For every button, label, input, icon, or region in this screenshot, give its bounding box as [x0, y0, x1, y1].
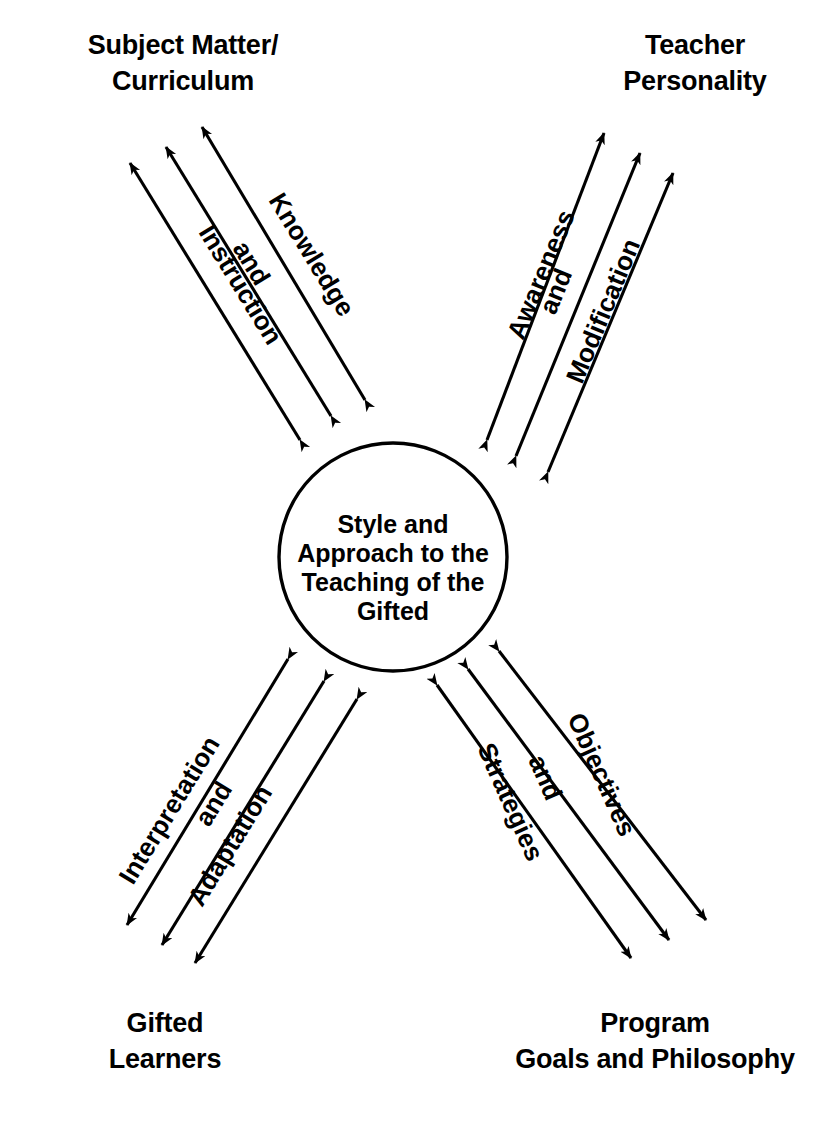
edge-label-top-right-inner: Modification [560, 234, 646, 387]
node-label-program-goals-and-philosophy: Program Goals and Philosophy [495, 1006, 815, 1077]
node-label-subject-matter-curriculum: Subject Matter/ Curriculum [18, 28, 348, 99]
center-text-line-4: Gifted [357, 597, 429, 625]
edge-label-bottom-right-outer: Objectives [562, 708, 643, 840]
edge-label-top-left-inner: Instruction [193, 219, 289, 349]
spoke-bottom-left: Interpretation and Adaptation [113, 659, 357, 963]
node-label-gifted-learners: Gifted Learners [20, 1006, 310, 1077]
spoke-top-left: Knowledge and Instruction [130, 127, 365, 440]
arrow-bottom-left-outer [195, 699, 357, 963]
center-text-line-2: Approach to the [297, 539, 489, 567]
node-label-teacher-personality: Teacher Personality [570, 28, 820, 99]
diagram-canvas: Knowledge and Instruction Awareness and … [0, 0, 837, 1132]
center-text-line-3: Teaching of the [302, 568, 485, 596]
diagram-page: Knowledge and Instruction Awareness and … [0, 0, 837, 1132]
spoke-bottom-right: Objectives and Strategies [437, 651, 706, 958]
center-text-line-1: Style and [337, 510, 448, 538]
spoke-top-right: Awareness and Modification [487, 133, 673, 472]
